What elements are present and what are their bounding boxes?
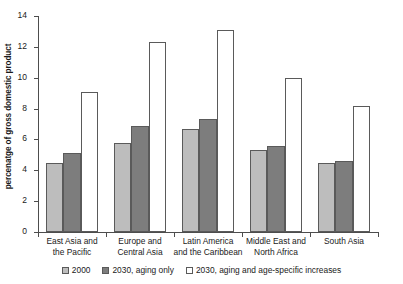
bar (81, 92, 99, 232)
y-axis-line (38, 16, 39, 233)
legend-label: 2030, aging only (112, 265, 173, 275)
y-tick-label: 2 (22, 195, 27, 206)
y-tick-label: 6 (22, 133, 27, 144)
bar (182, 129, 200, 232)
legend-item[interactable]: 2000 (62, 265, 91, 275)
bar (199, 119, 217, 232)
y-tick: 6 (34, 139, 38, 140)
y-tick: 10 (34, 78, 38, 79)
y-tick: 8 (34, 109, 38, 110)
bar (318, 163, 336, 232)
bar-group (182, 16, 235, 232)
bar (46, 163, 64, 232)
y-tick: 14 (34, 16, 38, 17)
y-tick: 4 (34, 170, 38, 171)
chart-legend: 20002030, aging only2030, aging and age-… (0, 265, 403, 275)
y-tick-label: 10 (18, 72, 27, 83)
y-tick-label: 12 (18, 41, 27, 52)
y-axis-title: percenatge of gross domestic product (0, 0, 18, 232)
bar (250, 150, 268, 232)
bar (114, 143, 132, 232)
y-tick: 12 (34, 47, 38, 48)
bar-chart-figure: percenatge of gross domestic product 024… (0, 0, 403, 284)
bar (335, 161, 353, 232)
bar (285, 78, 303, 232)
y-tick-label: 0 (22, 226, 27, 237)
legend-swatch-icon (102, 267, 109, 274)
y-tick-label: 8 (22, 103, 27, 114)
legend-item[interactable]: 2030, aging and age-specific increases (186, 265, 341, 275)
x-axis-line (38, 232, 379, 233)
plot-area: 02468101214 (38, 16, 378, 232)
y-tick: 2 (34, 201, 38, 202)
bar-group (114, 16, 167, 232)
bar-group (318, 16, 371, 232)
legend-label: 2030, aging and age-specific increases (196, 265, 341, 275)
legend-label: 2000 (72, 265, 91, 275)
category-label-line: South Asia (300, 236, 388, 247)
category-label: South Asia (300, 236, 388, 247)
bar-group (250, 16, 303, 232)
bar (353, 106, 371, 233)
legend-swatch-icon (62, 267, 69, 274)
bar (63, 153, 81, 232)
bar (149, 42, 167, 232)
y-axis-title-text: percenatge of gross domestic product (5, 43, 14, 189)
y-tick-label: 14 (18, 10, 27, 21)
y-tick-label: 4 (22, 164, 27, 175)
bar (217, 30, 235, 232)
category-label-line: North Africa (232, 247, 320, 258)
bar (131, 126, 149, 232)
legend-item[interactable]: 2030, aging only (102, 265, 173, 275)
bar (267, 146, 285, 232)
bar-group (46, 16, 99, 232)
legend-swatch-icon (186, 267, 193, 274)
